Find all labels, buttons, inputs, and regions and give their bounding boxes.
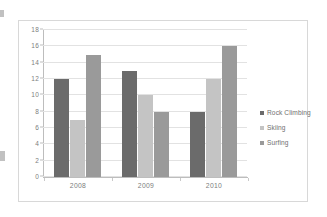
y-tick-label: 18 — [31, 26, 39, 33]
y-tick-label: 12 — [31, 75, 39, 82]
x-tick-mark — [248, 178, 249, 181]
scan-artifact-top — [0, 10, 4, 17]
legend-swatch-icon — [260, 111, 264, 115]
bar-group — [44, 30, 112, 177]
bar[interactable] — [206, 79, 221, 177]
bar[interactable] — [70, 120, 85, 177]
bar[interactable] — [122, 71, 137, 177]
legend-swatch-icon — [260, 126, 264, 130]
y-tick-label: 14 — [31, 58, 39, 65]
y-tick-label: 16 — [31, 42, 39, 49]
legend-item[interactable]: Skiing — [260, 124, 311, 131]
y-tick-label: 6 — [35, 124, 39, 131]
x-tick-mark — [44, 178, 45, 181]
legend-item[interactable]: Rock Climbing — [260, 109, 311, 116]
plot-area: 024681012141618 — [43, 30, 247, 177]
x-axis-category-label: 2009 — [112, 182, 180, 189]
chart-legend: Rock ClimbingSkiingSurfing — [260, 109, 311, 146]
bar-group — [179, 30, 247, 177]
legend-label: Rock Climbing — [267, 109, 311, 116]
y-tick-mark — [40, 94, 43, 95]
bar[interactable] — [54, 79, 69, 177]
legend-label: Surfing — [267, 139, 289, 146]
y-tick-mark — [40, 61, 43, 62]
chart-body: 024681012141618 200820092010 Rock Climbi… — [19, 21, 307, 201]
y-tick-mark — [40, 159, 43, 160]
y-tick-mark — [40, 29, 43, 30]
bar[interactable] — [154, 112, 169, 177]
y-tick-label: 8 — [35, 107, 39, 114]
bar[interactable] — [138, 95, 153, 177]
x-axis-category-label: 2008 — [44, 182, 112, 189]
y-tick-label: 10 — [31, 91, 39, 98]
x-tick-mark — [180, 178, 181, 181]
bar[interactable] — [222, 46, 237, 177]
legend-item[interactable]: Surfing — [260, 139, 311, 146]
x-axis-line — [43, 177, 248, 178]
bar-group — [112, 30, 180, 177]
x-tick-mark — [112, 178, 113, 181]
bar-groups — [44, 30, 247, 177]
y-tick-mark — [40, 143, 43, 144]
chart-frame: 024681012141618 200820092010 Rock Climbi… — [18, 20, 308, 202]
legend-label: Skiing — [267, 124, 286, 131]
bar[interactable] — [190, 112, 205, 177]
y-tick-mark — [40, 78, 43, 79]
y-tick-label: 4 — [35, 140, 39, 147]
y-tick-mark — [40, 110, 43, 111]
y-tick-label: 0 — [35, 173, 39, 180]
x-axis-labels: 200820092010 — [44, 182, 248, 189]
y-tick-mark — [40, 45, 43, 46]
bar[interactable] — [86, 55, 101, 178]
y-tick-label: 2 — [35, 156, 39, 163]
y-tick-mark — [40, 127, 43, 128]
y-tick-mark — [40, 176, 43, 177]
x-axis-category-label: 2010 — [180, 182, 248, 189]
legend-swatch-icon — [260, 141, 264, 145]
scan-artifact-bottom — [0, 151, 5, 161]
